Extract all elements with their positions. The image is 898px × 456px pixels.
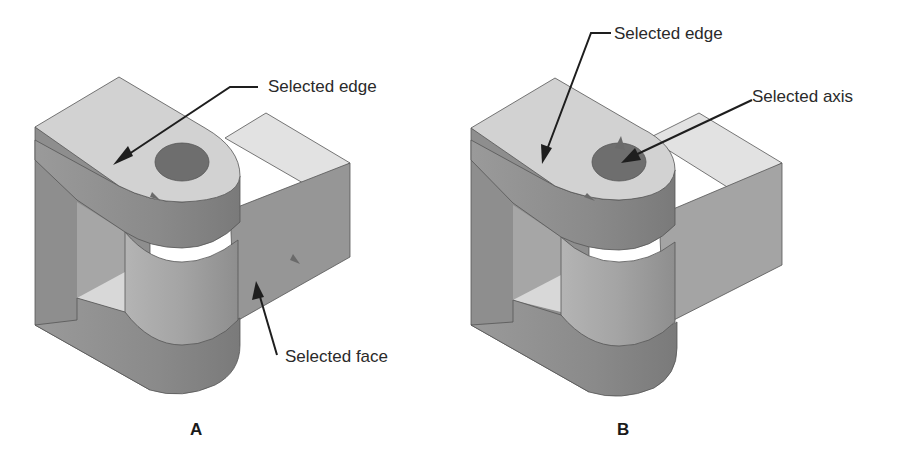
callout-selected-edge: Selected edge (614, 25, 723, 42)
right-block-side-face (659, 163, 782, 325)
central-cylinder (125, 232, 238, 345)
callout-selected-edge: Selected edge (268, 78, 377, 95)
hinge-part-a-illustration (0, 0, 449, 456)
panel-label-a: A (190, 421, 202, 438)
right-block-side-face (230, 163, 350, 322)
central-cylinder (561, 237, 675, 346)
figure-b: Selected edge Selected axis B (449, 0, 898, 456)
hinge-part-b-illustration (449, 0, 898, 456)
callout-selected-axis: Selected axis (752, 88, 853, 105)
callout-selected-face: Selected face (285, 348, 388, 365)
panel-label-b: B (617, 421, 629, 438)
hole (155, 143, 209, 181)
figure-a: Selected edge Selected face A (0, 0, 449, 456)
